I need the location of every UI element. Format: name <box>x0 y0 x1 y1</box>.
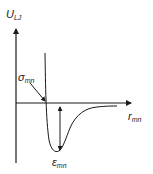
x-axis-label-sub: mn <box>132 116 142 123</box>
sigma-label: σmn <box>18 72 34 84</box>
sigma-pointer-arrow <box>30 83 45 101</box>
epsilon-label-sub: mn <box>57 162 67 169</box>
y-axis-label-sub: LJ <box>14 14 21 21</box>
y-axis-label-main: U <box>6 8 14 20</box>
sigma-label-main: σ <box>18 71 25 83</box>
x-axis-label: rmn <box>128 111 141 123</box>
potential-curve <box>45 53 117 152</box>
sigma-label-sub: mn <box>25 77 35 84</box>
y-axis-label: ULJ <box>6 9 21 21</box>
epsilon-label: εmn <box>52 157 67 169</box>
lj-potential-diagram <box>0 0 153 174</box>
